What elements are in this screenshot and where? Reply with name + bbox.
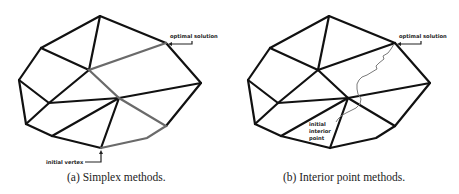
figure-canvas: optimal solution initial vertex optimal … <box>0 0 459 194</box>
arrow-icon <box>170 41 192 44</box>
caption-b: (b) Interior point methods. <box>283 171 405 183</box>
caption-a: (a) Simplex methods. <box>67 171 166 183</box>
optimal-label-a: optimal solution <box>170 33 218 40</box>
panel-a-optimal-annotation: optimal solution <box>168 33 218 46</box>
initial-point-label-2: interior <box>309 128 331 134</box>
panel-a-start-annotation: initial vertex <box>46 150 103 165</box>
initial-point-label-3: point <box>309 135 325 142</box>
initial-vertex-label: initial vertex <box>46 159 84 165</box>
arrow-icon <box>85 152 101 162</box>
panel-b-optimal-annotation: optimal solution <box>397 33 447 46</box>
optimal-label-b: optimal solution <box>399 33 447 40</box>
initial-point-label-1: initial <box>309 121 326 127</box>
arrow-icon <box>399 41 421 44</box>
panel-b-start-annotation: initial interior point <box>309 121 331 142</box>
